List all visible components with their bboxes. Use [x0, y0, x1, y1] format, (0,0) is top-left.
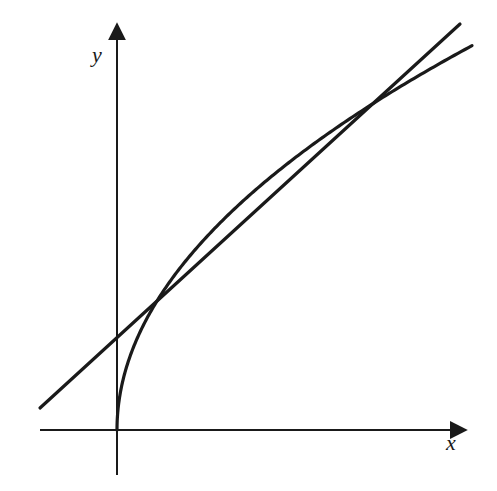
x-axis-label: x — [445, 430, 456, 455]
chart-figure: y x — [0, 0, 497, 491]
y-axis-label: y — [90, 42, 102, 67]
curve-series — [117, 46, 472, 430]
line-series — [40, 24, 460, 408]
